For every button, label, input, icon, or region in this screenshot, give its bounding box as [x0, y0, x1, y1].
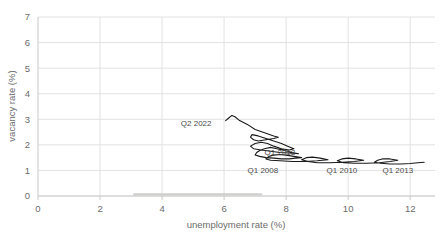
annotation-label: Q1 2013: [382, 166, 413, 175]
annotation-label: Q1 2010: [327, 166, 358, 175]
plot-background: [38, 17, 435, 196]
y-tick-label: 1: [25, 165, 30, 176]
y-tick-label: 6: [25, 37, 30, 48]
chart-canvas: 01234567 024681012 Q2 2022Q1 2018Q1 2008…: [0, 0, 440, 240]
y-axis-title: vacancy rate (%): [6, 70, 17, 141]
annotation-label: Q1 2008: [248, 166, 279, 175]
y-axis-tick-labels: 01234567: [25, 11, 30, 201]
x-axis-tick-marks: [38, 196, 410, 200]
y-tick-label: 4: [25, 88, 30, 99]
y-tick-label: 3: [25, 114, 30, 125]
y-tick-label: 7: [25, 11, 30, 22]
x-tick-label: 0: [35, 203, 40, 214]
x-tick-label: 6: [221, 203, 226, 214]
x-tick-label: 2: [97, 203, 102, 214]
annotation-label: Q2 2022: [181, 119, 212, 128]
beveridge-curve-chart: 01234567 024681012 Q2 2022Q1 2018Q1 2008…: [0, 0, 440, 240]
annotation-label: Q1 2018: [265, 148, 296, 157]
x-axis-title: unemployment rate (%): [187, 219, 286, 230]
y-tick-label: 5: [25, 63, 30, 74]
y-tick-label: 2: [25, 139, 30, 150]
y-tick-label: 0: [25, 190, 30, 201]
x-axis-tick-labels: 024681012: [35, 203, 415, 214]
x-tick-label: 12: [405, 203, 416, 214]
x-tick-label: 10: [343, 203, 354, 214]
x-tick-label: 8: [283, 203, 288, 214]
x-tick-label: 4: [159, 203, 164, 214]
